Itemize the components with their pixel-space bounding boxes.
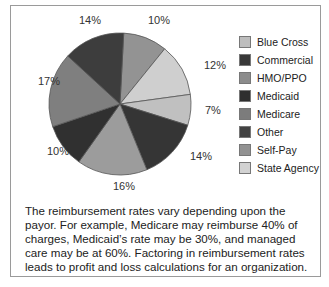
legend-label: Self-Pay bbox=[257, 144, 297, 156]
legend-item: Commercial bbox=[239, 51, 319, 69]
legend-swatch bbox=[239, 36, 251, 48]
legend-label: Medicare bbox=[257, 108, 300, 120]
legend-item: Self-Pay bbox=[239, 141, 319, 159]
legend-swatch bbox=[239, 162, 251, 174]
legend-item: Medicare bbox=[239, 105, 319, 123]
legend-label: Commercial bbox=[257, 54, 313, 66]
legend-item: Blue Cross bbox=[239, 33, 319, 51]
legend-swatch bbox=[239, 126, 251, 138]
chart-legend: Blue CrossCommercialHMO/PPOMedicaidMedic… bbox=[239, 33, 319, 177]
legend-item: State Agency bbox=[239, 159, 319, 177]
slice-percent-label: 14% bbox=[190, 150, 212, 162]
legend-label: Other bbox=[257, 126, 283, 138]
slice-percent-label: 7% bbox=[205, 104, 221, 116]
legend-swatch bbox=[239, 90, 251, 102]
legend-swatch bbox=[239, 144, 251, 156]
legend-item: Medicaid bbox=[239, 87, 319, 105]
slice-percent-label: 10% bbox=[148, 14, 170, 26]
legend-label: Blue Cross bbox=[257, 36, 308, 48]
legend-label: Medicaid bbox=[257, 90, 299, 102]
legend-swatch bbox=[239, 72, 251, 84]
legend-swatch bbox=[239, 54, 251, 66]
slice-percent-label: 12% bbox=[204, 59, 226, 71]
legend-swatch bbox=[239, 108, 251, 120]
slice-percent-label: 14% bbox=[79, 14, 101, 26]
description-text: The reimbursement rates vary depending u… bbox=[25, 204, 315, 274]
legend-item: HMO/PPO bbox=[239, 69, 319, 87]
slice-percent-label: 17% bbox=[38, 75, 60, 87]
slice-percent-label: 16% bbox=[113, 180, 135, 192]
legend-label: State Agency bbox=[257, 162, 319, 174]
slice-percent-label: 10% bbox=[47, 145, 69, 157]
legend-item: Other bbox=[239, 123, 319, 141]
legend-label: HMO/PPO bbox=[257, 72, 307, 84]
